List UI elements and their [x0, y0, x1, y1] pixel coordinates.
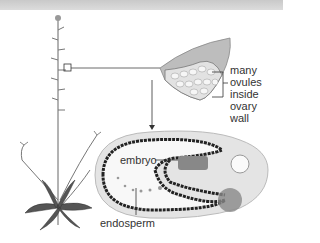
embryo-label: embryo — [120, 154, 157, 166]
ovules-label-line3: wall — [230, 112, 283, 124]
plant-illustration — [20, 15, 101, 225]
ovules-label-line1: many ovules — [230, 64, 283, 88]
arrow-head-icon — [149, 125, 155, 130]
ovules-label-line2: inside ovary — [230, 88, 283, 112]
seed-illustration — [95, 131, 268, 218]
ovary-illustration — [160, 38, 230, 100]
ovules-label: many ovules inside ovary wall — [230, 64, 283, 124]
endosperm-label: endosperm — [100, 217, 155, 229]
